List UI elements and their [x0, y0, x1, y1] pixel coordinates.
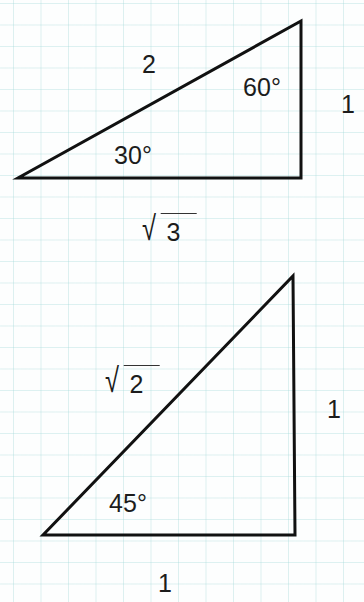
top-hypotenuse-label: 2: [142, 52, 156, 77]
sqrt2-expression: √ 2: [103, 363, 160, 397]
top-angle-60-label: 60°: [243, 75, 281, 100]
bottom-side-1-label: 1: [327, 397, 341, 422]
top-angle-30-label: 30°: [114, 143, 152, 168]
radicand: 2: [123, 365, 159, 397]
bottom-base-1-label: 1: [158, 571, 172, 596]
radicand: 3: [160, 213, 196, 245]
top-side-1-label: 1: [341, 92, 355, 117]
radical-icon: √: [105, 363, 119, 397]
triangles-figure: [0, 0, 364, 602]
top-base-sqrt3-label: √ 3: [140, 211, 197, 245]
bottom-hypotenuse-sqrt2-label: √ 2: [103, 363, 160, 397]
radical-icon: √: [142, 211, 156, 245]
bottom-angle-45-label: 45°: [109, 491, 147, 516]
triangle-45-45-90: [43, 276, 295, 535]
sqrt3-expression: √ 3: [140, 211, 197, 245]
